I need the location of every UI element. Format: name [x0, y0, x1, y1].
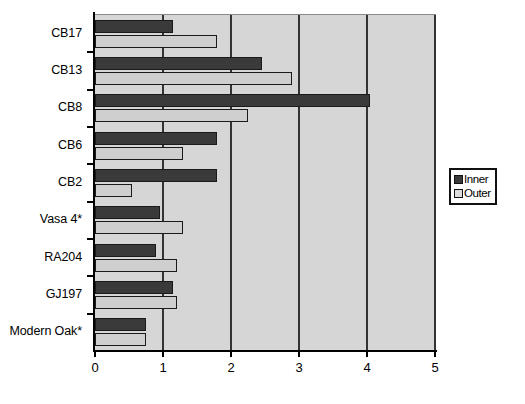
x-tick-label-4: 4 [363, 360, 370, 375]
bar-outer-cb13 [95, 72, 292, 85]
gridline-x-3 [298, 15, 300, 351]
y-tick-4 [87, 163, 94, 165]
bar-inner-cb2 [95, 169, 217, 182]
category-label-gj197: GJ197 [46, 287, 82, 301]
x-tick-label-3: 3 [295, 360, 302, 375]
legend-label-inner: Inner [464, 173, 488, 185]
bar-inner-ra204 [95, 244, 156, 257]
category-label-cb2: CB2 [58, 175, 82, 189]
category-label-cb17: CB17 [51, 26, 82, 40]
y-tick-7 [87, 275, 94, 277]
legend-item-outer: Outer [454, 186, 491, 200]
dark-swatch-icon [454, 175, 463, 184]
bar-outer-vasa4 [95, 221, 183, 234]
category-label-cb8: CB8 [58, 100, 82, 114]
x-axis-line [93, 350, 437, 352]
x-tick-label-2: 2 [227, 360, 234, 375]
category-axis-labels: CB17CB13CB8CB6CB2Vasa 4*RA204GJ197Modern… [0, 14, 88, 350]
bar-inner-cb6 [95, 132, 217, 145]
category-label-cb13: CB13 [51, 63, 82, 77]
bar-inner-cb13 [95, 57, 262, 70]
bar-outer-cb8 [95, 109, 248, 122]
category-label-ra204: RA204 [44, 250, 82, 264]
y-tick-8 [87, 313, 94, 315]
x-tick-3 [298, 350, 300, 357]
bar-outer-modernoak [95, 333, 146, 346]
chart-legend: Inner Outer [449, 168, 497, 205]
x-tick-label-5: 5 [431, 360, 438, 375]
y-tick-6 [87, 238, 94, 240]
light-swatch-icon [454, 189, 463, 198]
bar-inner-vasa4 [95, 206, 160, 219]
x-tick-1 [162, 350, 164, 357]
gridline-x-4 [366, 15, 368, 351]
x-tick-label-0: 0 [91, 360, 98, 375]
x-tick-5 [434, 350, 436, 357]
category-label-cb6: CB6 [58, 138, 82, 152]
bar-inner-cb8 [95, 94, 370, 107]
x-tick-4 [366, 350, 368, 357]
y-axis-line [93, 12, 95, 352]
y-tick-2 [87, 89, 94, 91]
y-tick-3 [87, 126, 94, 128]
x-tick-label-1: 1 [159, 360, 166, 375]
bar-outer-cb17 [95, 35, 217, 48]
bar-inner-gj197 [95, 281, 173, 294]
legend-label-outer: Outer [464, 187, 491, 199]
category-label-vasa4: Vasa 4* [40, 212, 82, 226]
legend-item-inner: Inner [454, 172, 491, 186]
bar-outer-gj197 [95, 296, 177, 309]
y-tick-5 [87, 201, 94, 203]
x-tick-0 [94, 350, 96, 357]
plot-area [95, 14, 436, 351]
bar-outer-ra204 [95, 259, 177, 272]
bar-inner-cb17 [95, 20, 173, 33]
gridline-x-5 [434, 15, 436, 351]
bar-chart: CB17CB13CB8CB6CB2Vasa 4*RA204GJ197Modern… [0, 0, 525, 404]
y-tick-1 [87, 51, 94, 53]
bar-inner-modernoak [95, 318, 146, 331]
bar-outer-cb2 [95, 184, 132, 197]
bar-outer-cb6 [95, 147, 183, 160]
x-tick-2 [230, 350, 232, 357]
category-label-modernoak: Modern Oak* [9, 324, 82, 338]
